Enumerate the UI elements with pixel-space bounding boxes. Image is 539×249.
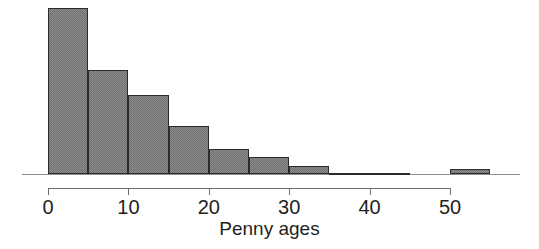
histogram-bar (249, 157, 289, 174)
histogram-bar (209, 149, 249, 174)
histogram-bar (370, 173, 410, 175)
x-axis-tick-label: 30 (278, 197, 300, 217)
x-axis-tick-label: 10 (117, 197, 139, 217)
x-axis-tick-label: 20 (198, 197, 220, 217)
histogram-bar (48, 8, 88, 174)
histogram-bar (169, 126, 209, 174)
plot-baseline (22, 174, 520, 175)
histogram-bar (289, 166, 329, 174)
x-axis-tick-label: 0 (42, 197, 53, 217)
x-axis-tick (289, 188, 290, 195)
histogram-bar (329, 173, 369, 175)
histogram-figure: 01020304050 Penny ages (0, 0, 539, 249)
x-axis-tick (48, 188, 49, 195)
x-axis-tick (370, 188, 371, 195)
histogram-bar (88, 70, 128, 174)
x-axis-line (48, 188, 450, 189)
x-axis-title: Penny ages (0, 218, 539, 240)
histogram-bar (450, 169, 490, 174)
x-axis-tick (128, 188, 129, 195)
x-axis-tick-label: 40 (358, 197, 380, 217)
x-axis-tick-label: 50 (439, 197, 461, 217)
x-axis-tick (450, 188, 451, 195)
x-axis-tick (209, 188, 210, 195)
histogram-bar (128, 95, 168, 174)
